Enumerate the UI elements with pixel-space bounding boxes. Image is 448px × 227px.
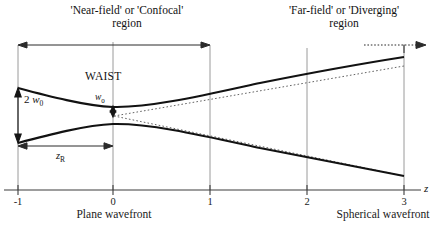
diagram-canvas bbox=[0, 0, 448, 227]
plane-wavefront-caption: Plane wavefront bbox=[48, 208, 180, 220]
far-field-line1: 'Far-field' or 'Diverging' bbox=[289, 4, 399, 16]
waist-radius-label: w0 bbox=[95, 92, 105, 106]
beam-diameter-prefix: 2 bbox=[24, 93, 30, 105]
beam-diameter-symbol: w bbox=[32, 93, 39, 105]
beam-envelope bbox=[18, 57, 404, 176]
far-field-region-label: 'Far-field' or 'Diverging' region bbox=[254, 4, 434, 30]
far-field-line2: region bbox=[254, 17, 434, 30]
rayleigh-range-arrowhead-right bbox=[104, 143, 113, 149]
z-axis bbox=[4, 185, 421, 195]
beam-envelope-upper bbox=[18, 57, 404, 107]
beam-diameter-arrow bbox=[15, 88, 21, 143]
asymptote-upper bbox=[114, 66, 404, 116]
far-field-arrow bbox=[364, 42, 426, 54]
waist-radius-subscript: 0 bbox=[101, 97, 105, 105]
spherical-wavefront-caption: Spherical wavefront bbox=[318, 208, 448, 220]
near-field-arrowhead-left bbox=[18, 42, 27, 48]
rayleigh-range-subscript: R bbox=[60, 155, 65, 164]
tick-label-z2: 2 bbox=[294, 196, 320, 207]
beam-diameter-subscript: 0 bbox=[40, 99, 44, 108]
far-field-arrowhead bbox=[416, 42, 426, 49]
near-field-line1: 'Near-field' or 'Confocal' bbox=[71, 4, 184, 16]
tick-label-zm1: -1 bbox=[5, 196, 31, 207]
rayleigh-range-label: zR bbox=[56, 150, 65, 164]
gaussian-beam-diagram: 'Near-field' or 'Confocal' region 'Far-f… bbox=[0, 0, 448, 227]
gridlines bbox=[18, 42, 404, 190]
rayleigh-range-arrowhead-left bbox=[18, 143, 27, 149]
tick-label-z3: 3 bbox=[391, 196, 417, 207]
near-field-region-label: 'Near-field' or 'Confocal' region bbox=[44, 4, 210, 30]
near-field-span-arrow bbox=[18, 42, 210, 48]
z-axis-label: z bbox=[424, 182, 428, 194]
rayleigh-range-arrow bbox=[18, 143, 113, 149]
near-field-arrowhead-right bbox=[201, 42, 210, 48]
near-field-line2: region bbox=[44, 17, 210, 30]
tick-label-z1: 1 bbox=[197, 196, 223, 207]
tick-label-z0: 0 bbox=[100, 196, 126, 207]
waist-label: WAIST bbox=[85, 70, 122, 83]
beam-diameter-label: 2 w0 bbox=[24, 93, 43, 109]
beam-envelope-lower bbox=[18, 124, 404, 176]
